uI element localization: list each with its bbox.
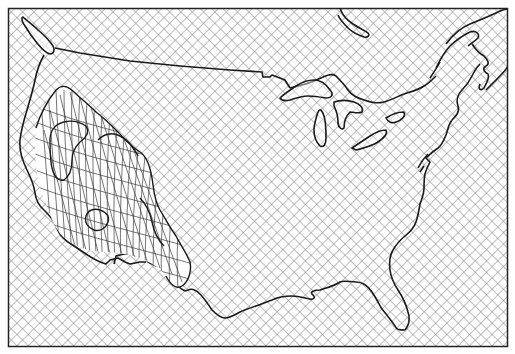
map-canvas (0, 0, 515, 354)
map-svg (0, 0, 515, 354)
